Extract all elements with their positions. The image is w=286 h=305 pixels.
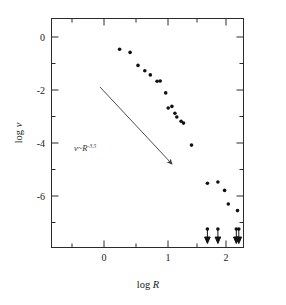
data-point <box>166 106 170 110</box>
x-axis-title: log R <box>137 279 160 290</box>
data-point <box>236 209 240 213</box>
x-axis-title-var: R <box>152 279 160 290</box>
data-point <box>136 64 140 68</box>
y-tick-label-minus6: -6 <box>37 191 45 202</box>
y-axis-major-ticks <box>52 37 244 196</box>
scatter-plot: 0 1 2 0 -2 -4 -6 log R log v v~R-3.5 <box>0 0 286 305</box>
data-point <box>149 73 153 77</box>
x-tick-label-1: 1 <box>166 252 171 263</box>
data-point <box>118 47 122 51</box>
trend-arrow <box>100 87 172 164</box>
upper-limit-arrows-group <box>205 227 242 243</box>
x-axis-minor-ticks <box>72 19 197 248</box>
data-point <box>190 143 194 147</box>
power-law-annotation: v~R-3.5 <box>74 143 97 154</box>
data-point <box>143 69 147 73</box>
power-law-base: v~R <box>74 143 88 153</box>
y-tick-label-minus2: -2 <box>37 85 45 96</box>
x-tick-label-2: 2 <box>224 252 229 263</box>
data-point <box>182 121 186 125</box>
data-point <box>227 202 231 206</box>
data-point <box>223 189 227 193</box>
data-point <box>170 105 174 109</box>
upper-limit-arrow <box>205 227 211 243</box>
upper-limit-arrow <box>215 227 221 243</box>
y-tick-label-0: 0 <box>40 32 45 43</box>
data-points-group <box>118 47 240 212</box>
data-point <box>128 51 132 55</box>
data-point <box>155 80 159 84</box>
x-tick-label-0: 0 <box>102 252 107 263</box>
y-axis-title: log v <box>13 122 24 143</box>
figure-container: 0 1 2 0 -2 -4 -6 log R log v v~R-3.5 <box>0 0 286 305</box>
data-point <box>173 112 177 116</box>
plot-frame <box>52 19 244 248</box>
x-axis-major-ticks <box>104 19 226 248</box>
y-axis-title-var: v <box>13 122 24 127</box>
data-point <box>164 91 168 95</box>
data-point <box>175 115 179 119</box>
data-point <box>158 79 162 83</box>
y-axis-title-log: log <box>13 127 24 143</box>
y-tick-label-minus4: -4 <box>37 138 45 149</box>
data-point <box>206 182 210 186</box>
data-point <box>216 180 220 184</box>
power-law-exponent: -3.5 <box>88 143 97 149</box>
x-axis-title-log: log <box>137 279 153 290</box>
